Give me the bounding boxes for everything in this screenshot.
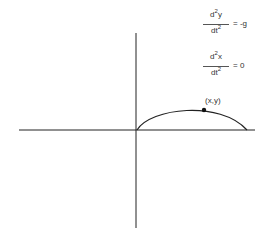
eq-x-num-var: x <box>218 52 222 61</box>
eq-y-rhs: = -g <box>233 19 247 28</box>
trajectory-diagram <box>0 0 273 240</box>
eq-x-rhs: = 0 <box>233 61 244 70</box>
fraction-bar <box>203 66 229 67</box>
eq-y-den-exp: 2 <box>218 24 221 30</box>
eq-x-den-d: dt <box>211 68 218 77</box>
eq-x-den-exp: 2 <box>218 66 221 72</box>
eq-y-den-d: dt <box>211 26 218 35</box>
eq-y-num-exp: 2 <box>215 8 218 14</box>
position-marker <box>202 108 206 112</box>
fraction-bar <box>203 24 229 25</box>
point-label: (x,y) <box>205 96 221 105</box>
eq-y-num-d: d <box>210 10 214 19</box>
eq-y-num-var: y <box>218 10 222 19</box>
trajectory-curve <box>137 110 247 130</box>
eq-x-num-exp: 2 <box>215 50 218 56</box>
eq-x-num-d: d <box>210 52 214 61</box>
